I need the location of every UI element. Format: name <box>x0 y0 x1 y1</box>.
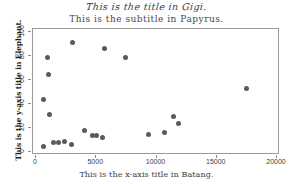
data-point <box>94 133 99 138</box>
y-tick-mark <box>28 127 31 128</box>
data-point <box>41 97 46 102</box>
x-tick-label: 5000 <box>87 158 103 165</box>
chart-title-block: This is the title in Gigi. This is the s… <box>0 0 293 25</box>
data-point <box>62 139 67 144</box>
data-point <box>41 144 46 149</box>
data-point <box>46 72 51 77</box>
data-point <box>100 135 105 140</box>
data-point <box>146 132 151 137</box>
data-point <box>69 142 74 147</box>
data-point <box>51 140 56 145</box>
x-axis-title: This is the x-axis title in Batang. <box>0 170 293 179</box>
data-point <box>244 86 249 91</box>
chart-subtitle: This is the subtitle in Papyrus. <box>0 13 293 25</box>
scatter-plot-figure: This is the title in Gigi. This is the s… <box>0 0 293 185</box>
plot-area <box>32 28 279 154</box>
y-tick-mark <box>28 55 31 56</box>
data-point <box>45 55 50 60</box>
y-axis-title: This is the y-axis title in Elephant. <box>14 21 23 161</box>
data-point <box>82 128 87 133</box>
data-point <box>171 114 176 119</box>
data-point <box>70 40 75 45</box>
data-point <box>123 55 128 60</box>
x-tick-label: 0 <box>33 158 37 165</box>
y-tick-mark <box>28 151 31 152</box>
data-point <box>162 130 167 135</box>
y-tick-mark <box>28 79 31 80</box>
x-tick-label: 15000 <box>206 158 225 165</box>
data-point <box>47 112 52 117</box>
data-point <box>56 140 61 145</box>
y-tick-mark <box>28 31 31 32</box>
x-tick-label: 20000 <box>266 158 285 165</box>
data-point <box>102 46 107 51</box>
chart-title: This is the title in Gigi. <box>0 1 293 13</box>
x-tick-label: 10000 <box>146 158 165 165</box>
data-point <box>176 121 181 126</box>
y-tick-mark <box>28 103 31 104</box>
